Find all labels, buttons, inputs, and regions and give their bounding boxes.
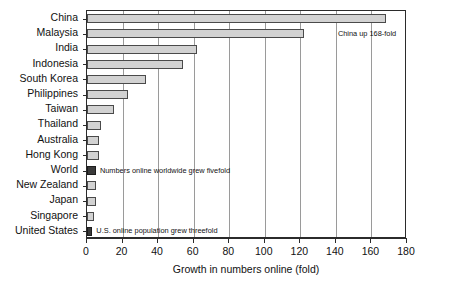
bar-hong-kong <box>87 151 99 160</box>
y-axis-label-singapore: Singapore <box>30 208 78 223</box>
x-axis-tick-label: 0 <box>83 245 89 257</box>
x-axis-tick <box>157 238 158 243</box>
x-axis-tick-label: 40 <box>151 245 163 257</box>
annotation-1: China up 168-fold <box>338 29 396 38</box>
bar-philippines <box>87 90 128 99</box>
x-axis-tick-label: 140 <box>326 245 344 257</box>
x-axis-tick-label: 60 <box>187 245 199 257</box>
y-axis-tick <box>83 79 87 80</box>
y-axis-tick <box>83 216 87 217</box>
x-axis-tick <box>122 238 123 243</box>
x-axis-tick-label: 100 <box>255 245 273 257</box>
bar-united-states <box>87 227 92 236</box>
x-axis-title: Growth in numbers online (fold) <box>86 263 406 275</box>
bar-china <box>87 14 386 23</box>
y-axis-tick <box>83 19 87 20</box>
bar-australia <box>87 136 99 145</box>
y-axis-label-china: China <box>51 10 78 25</box>
x-axis-tick-label: 80 <box>222 245 234 257</box>
y-axis-label-thailand: Thailand <box>38 116 78 131</box>
annotation-3: U.S. online population grew threefold <box>96 226 217 235</box>
bar-india <box>87 45 197 54</box>
y-axis-label-south-korea: South Korea <box>20 71 78 86</box>
x-axis-tick-label: 20 <box>116 245 128 257</box>
bar-singapore <box>87 212 94 221</box>
y-axis-tick <box>83 155 87 156</box>
x-axis: 020406080100120140160180 <box>86 238 406 239</box>
y-axis-tick <box>83 49 87 50</box>
y-axis-label-malaysia: Malaysia <box>37 25 78 40</box>
x-axis-tick <box>299 238 300 243</box>
bar-japan <box>87 197 96 206</box>
x-axis-tick <box>406 238 407 243</box>
y-axis-label-india: India <box>55 40 78 55</box>
y-axis-label-philippines: Philippines <box>27 86 78 101</box>
gridline <box>336 11 337 237</box>
bar-world <box>87 166 96 175</box>
x-axis-tick <box>264 238 265 243</box>
gridline <box>300 11 301 237</box>
gridline <box>265 11 266 237</box>
bar-taiwan <box>87 105 114 114</box>
y-axis-label-japan: Japan <box>49 192 78 207</box>
y-axis-label-indonesia: Indonesia <box>32 56 78 71</box>
y-axis-tick <box>83 231 87 232</box>
y-axis-label-hong-kong: Hong Kong <box>25 147 78 162</box>
bar-thailand <box>87 121 101 130</box>
y-axis-tick <box>83 125 87 126</box>
y-axis-tick <box>83 34 87 35</box>
x-axis-tick-label: 160 <box>362 245 380 257</box>
bar-south-korea <box>87 75 146 84</box>
y-axis-tick <box>83 110 87 111</box>
y-axis-tick <box>83 171 87 172</box>
gridline <box>229 11 230 237</box>
bar-indonesia <box>87 60 183 69</box>
y-axis-tick <box>83 186 87 187</box>
x-axis-tick-label: 120 <box>291 245 309 257</box>
y-axis-label-united-states: United States <box>15 223 78 238</box>
x-axis-tick <box>335 238 336 243</box>
x-axis-tick-label: 180 <box>397 245 415 257</box>
x-axis-tick <box>228 238 229 243</box>
y-axis-tick <box>83 201 87 202</box>
gridline <box>371 11 372 237</box>
y-axis-label-australia: Australia <box>37 132 78 147</box>
bar-new-zealand <box>87 181 96 190</box>
x-axis-tick <box>370 238 371 243</box>
y-axis-tick <box>83 64 87 65</box>
x-axis-tick <box>86 238 87 243</box>
y-axis-label-taiwan: Taiwan <box>45 101 78 116</box>
bar-malaysia <box>87 29 304 38</box>
x-axis-tick <box>193 238 194 243</box>
y-axis-tick <box>83 95 87 96</box>
plot-area: China up 168-foldNumbers online worldwid… <box>86 10 406 238</box>
y-axis-label-world: World <box>51 162 78 177</box>
bar-chart: ChinaMalaysiaIndiaIndonesiaSouth KoreaPh… <box>0 0 452 287</box>
annotation-2: Numbers online worldwide grew fivefold <box>100 166 230 175</box>
y-axis-tick <box>83 140 87 141</box>
y-axis-label-new-zealand: New Zealand <box>16 177 78 192</box>
y-axis-category-labels: ChinaMalaysiaIndiaIndonesiaSouth KoreaPh… <box>0 10 82 238</box>
